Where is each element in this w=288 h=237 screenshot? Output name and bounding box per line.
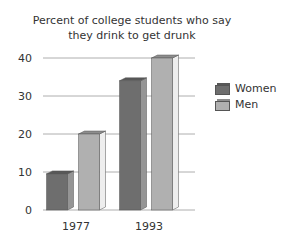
legend-swatch-men [215,99,231,109]
bar-women-1977 [47,174,68,210]
bar-men-1977 [79,134,100,210]
y-tick-label-10: 10 [18,166,32,179]
y-tick-label-40: 40 [18,52,32,65]
legend-item-men: Men [215,96,276,112]
x-tick-label-1993: 1993 [135,220,163,233]
bar-men-1993 [152,58,173,210]
bar-women-1993 [120,81,141,210]
legend-label-women: Women [235,82,276,95]
bar-side-men-1993 [173,55,179,210]
legend-item-women: Women [215,80,276,96]
y-tick-label-30: 30 [18,90,32,103]
y-tick-label-0: 0 [25,204,32,217]
legend-label-men: Men [235,98,258,111]
y-tick-label-20: 20 [18,128,32,141]
legend-swatch-women [215,83,231,93]
legend: Women Men [215,80,276,112]
x-tick-label-1977: 1977 [62,220,90,233]
bar-side-women-1993 [141,78,147,210]
bar-side-women-1977 [68,171,74,210]
bar-chart: 01020304019771993 [0,0,288,237]
bar-side-men-1977 [100,131,106,210]
